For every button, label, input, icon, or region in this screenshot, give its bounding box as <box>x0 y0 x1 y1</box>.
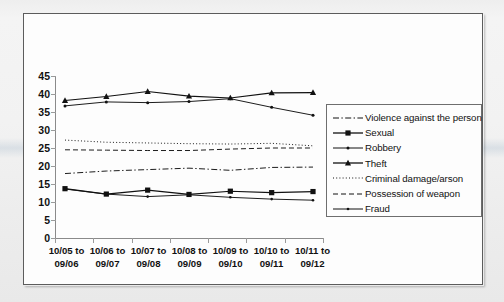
series-line <box>65 167 313 173</box>
x-label-line-1: 10/05 to <box>46 245 87 258</box>
x-label-line-1: 10/10 to <box>251 245 292 258</box>
x-axis-category-label: 10/08 to09/09 <box>169 245 210 279</box>
chart-screenshot: 454035302520151050 10/05 to09/0610/06 to… <box>0 0 504 302</box>
x-label-line-2: 09/06 <box>46 258 87 271</box>
data-point-marker <box>105 100 108 103</box>
data-point-marker <box>270 106 273 109</box>
legend-swatch-icon <box>331 112 365 124</box>
x-label-line-2: 09/09 <box>169 258 210 271</box>
data-point-marker <box>145 188 150 193</box>
data-point-marker <box>146 195 149 198</box>
x-label-line-1: 10/08 to <box>169 245 210 258</box>
x-axis-category-label: 10/07 to09/08 <box>128 245 169 279</box>
data-point-marker <box>64 188 67 191</box>
legend-swatch-icon <box>331 203 365 215</box>
data-point-marker <box>188 194 191 197</box>
legend-item-label: Violence against the person <box>365 112 482 123</box>
x-label-line-2: 09/08 <box>128 258 169 271</box>
x-label-line-2: 09/12 <box>292 258 333 271</box>
x-label-line-1: 10/09 to <box>210 245 251 258</box>
legend-swatch-icon <box>331 172 365 184</box>
legend-item[interactable]: Fraud <box>331 201 481 216</box>
data-point-marker <box>229 196 232 199</box>
legend-item[interactable]: Possession of weapon <box>331 186 481 201</box>
data-point-marker <box>347 146 350 149</box>
x-axis-category-label: 10/11 to09/12 <box>292 245 333 279</box>
series-line <box>65 148 313 151</box>
x-label-line-2: 09/07 <box>87 258 128 271</box>
x-label-line-1: 10/11 to <box>292 245 333 258</box>
legend-swatch-icon <box>331 127 365 139</box>
legend-item-label: Fraud <box>365 203 390 214</box>
data-point-marker <box>269 190 274 195</box>
legend-item[interactable]: Robbery <box>331 140 481 155</box>
legend-item-label: Criminal damage/arson <box>365 173 463 184</box>
legend-swatch-icon <box>331 157 365 169</box>
data-point-marker <box>105 193 108 196</box>
data-point-marker <box>64 104 67 107</box>
data-point-marker <box>312 199 315 202</box>
x-axis-category-label: 10/05 to09/06 <box>46 245 87 279</box>
data-point-marker <box>312 114 315 117</box>
data-point-marker <box>228 189 233 194</box>
series-violence-against-the-person <box>65 167 313 173</box>
legend-item[interactable]: Violence against the person <box>331 110 481 125</box>
chart-legend: Violence against the personSexualRobbery… <box>326 104 482 217</box>
series-possession-of-weapon <box>65 148 313 151</box>
legend-item[interactable]: Theft <box>331 156 481 171</box>
legend-item-label: Sexual <box>365 127 394 138</box>
legend-item-label: Possession of weapon <box>365 188 460 199</box>
x-axis-category-label: 10/09 to09/10 <box>210 245 251 279</box>
x-label-line-1: 10/06 to <box>87 245 128 258</box>
series-criminal-damage-arson <box>65 140 313 146</box>
data-point-marker <box>188 100 191 103</box>
data-point-marker <box>146 101 149 104</box>
x-label-line-2: 09/11 <box>251 258 292 271</box>
legend-item-label: Theft <box>365 158 387 169</box>
legend-item[interactable]: Sexual <box>331 125 481 140</box>
legend-swatch-icon <box>331 142 365 154</box>
x-axis-category-label: 10/06 to09/07 <box>87 245 128 279</box>
series-robbery <box>64 97 315 117</box>
legend-item-label: Robbery <box>365 142 401 153</box>
data-point-marker <box>270 198 273 201</box>
x-label-line-1: 10/07 to <box>128 245 169 258</box>
data-point-marker <box>347 207 350 210</box>
legend-item[interactable]: Criminal damage/arson <box>331 171 481 186</box>
data-point-marker <box>345 130 350 135</box>
legend-swatch-icon <box>331 188 365 200</box>
x-axis-category-label: 10/10 to09/11 <box>251 245 292 279</box>
x-label-line-2: 09/10 <box>210 258 251 271</box>
data-point-marker <box>310 189 315 194</box>
x-axis-labels: 10/05 to09/0610/06 to09/0710/07 to09/081… <box>46 245 333 279</box>
series-line <box>65 140 313 146</box>
data-point-marker <box>145 88 151 94</box>
series-fraud <box>64 188 315 202</box>
